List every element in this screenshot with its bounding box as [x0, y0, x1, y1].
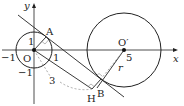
x-axis-label: x [173, 53, 179, 64]
tick-x-5: 5 [126, 52, 132, 63]
tick-y-neg1: −1 [18, 67, 33, 78]
diagram-canvas: y x A O B H O′ −1 1 1 −1 5 3 r [0, 0, 184, 106]
tick-x-pos1: 1 [53, 52, 59, 63]
right-angle-h [88, 84, 94, 87]
radius-r-label: r [118, 62, 124, 73]
y-axis-label: y [23, 0, 30, 11]
x-axis-arrow-icon [173, 48, 178, 52]
y-axis-arrow-icon [32, 3, 36, 8]
origin-label: O [23, 53, 31, 64]
point-a-label: A [45, 26, 54, 37]
tick-x-neg1: −1 [1, 52, 16, 63]
point-h-label: H [87, 93, 96, 104]
dashed-o-3 [34, 50, 50, 76]
origin-dot [32, 48, 36, 52]
tick-y-pos1: 1 [28, 36, 34, 47]
o-prime-label: O′ [118, 37, 129, 48]
length-3-label: 3 [49, 75, 55, 86]
point-b-label: B [97, 88, 104, 99]
line-o-h [34, 50, 92, 89]
